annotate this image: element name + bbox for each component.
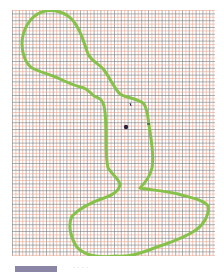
marker-dot xyxy=(124,125,128,129)
grid-lines xyxy=(12,10,215,256)
outline-drawing xyxy=(12,10,215,256)
caption-text: · · · · xyxy=(73,264,88,271)
grid-paper-figure xyxy=(12,10,215,256)
figure-caption: · · · · xyxy=(15,266,215,272)
caption-swatch xyxy=(15,266,57,272)
